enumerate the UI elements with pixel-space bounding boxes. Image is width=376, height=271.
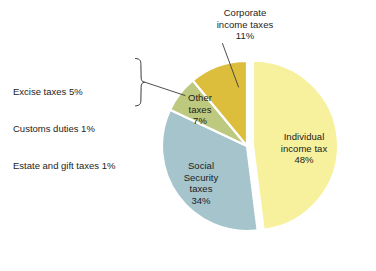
pie-chart-figure: Individual income tax 48% Social Securit…: [0, 0, 376, 271]
slice-label-other-taxes: Other taxes 7%: [170, 92, 230, 127]
other-taxes-breakdown: Excise taxes 5% Customs duties 1% Estate…: [13, 62, 135, 196]
curly-brace-icon: [136, 59, 145, 106]
breakdown-item-excise-taxes: Excise taxes 5%: [13, 86, 135, 98]
slice-label-social-security-taxes: Social Security taxes 34%: [163, 160, 239, 206]
breakdown-item-estate-and-gift-taxes: Estate and gift taxes 1%: [13, 160, 135, 172]
slice-label-individual-income-tax: Individual income tax 48%: [258, 131, 350, 166]
slice-label-corporate-income-taxes: Corporate income taxes 11%: [185, 7, 305, 42]
breakdown-item-customs-duties: Customs duties 1%: [13, 123, 135, 135]
